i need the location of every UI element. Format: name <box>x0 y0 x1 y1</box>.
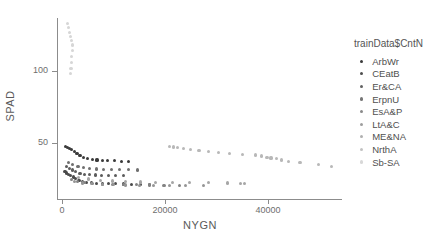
legend-dot-icon <box>360 160 363 163</box>
data-point <box>226 181 229 184</box>
legend-item[interactable]: NrthA <box>352 143 448 156</box>
data-point <box>111 179 114 182</box>
data-point <box>69 67 72 70</box>
data-point <box>188 181 191 184</box>
data-point <box>66 22 69 25</box>
x-tick-label: 40000 <box>243 205 293 215</box>
data-point <box>124 183 127 186</box>
data-point <box>139 180 142 183</box>
y-tick-label: 100 <box>8 65 48 75</box>
data-point <box>275 157 278 160</box>
legend-dot-icon <box>360 85 363 88</box>
legend-item[interactable]: ME&NA <box>352 131 448 144</box>
data-point <box>76 180 79 183</box>
data-point <box>76 165 79 168</box>
data-point <box>67 161 70 164</box>
data-point <box>127 168 130 171</box>
data-point <box>330 165 333 168</box>
x-tick-mark <box>165 199 166 204</box>
legend-item-label: Er&CA <box>372 81 401 92</box>
data-point <box>69 35 72 38</box>
data-point <box>168 184 171 187</box>
legend-dot-icon <box>360 110 363 113</box>
data-point <box>176 146 179 149</box>
data-point <box>73 180 76 183</box>
legend-item[interactable]: ErpnU <box>352 93 448 106</box>
data-point <box>67 26 70 29</box>
data-point <box>124 180 127 183</box>
data-point <box>162 184 165 187</box>
data-point <box>101 159 104 162</box>
data-point <box>88 173 91 176</box>
data-point <box>168 145 171 148</box>
data-point <box>260 154 263 157</box>
data-point <box>182 147 185 150</box>
data-point <box>254 153 257 156</box>
data-point <box>87 177 90 180</box>
data-point <box>88 167 91 170</box>
data-point <box>113 159 116 162</box>
data-point <box>178 184 181 187</box>
y-tick-mark <box>52 143 57 144</box>
data-point <box>120 160 123 163</box>
legend-title: trainData$CntN <box>352 38 448 49</box>
legend-item[interactable]: CEatB <box>352 68 448 81</box>
data-point <box>118 168 121 171</box>
legend-item[interactable]: ArbWr <box>352 55 448 68</box>
data-point <box>91 158 94 161</box>
x-tick-mark <box>62 199 63 204</box>
legend-item-label: ME&NA <box>372 131 406 142</box>
data-point <box>71 43 74 46</box>
data-point <box>154 181 157 184</box>
data-point <box>86 157 89 160</box>
x-axis-title: NYGN <box>150 219 250 231</box>
data-point <box>81 181 84 184</box>
x-axis-line <box>57 199 342 200</box>
data-point <box>207 150 210 153</box>
legend-dot-icon <box>360 60 363 63</box>
data-point <box>189 148 192 151</box>
legend-item-label: Sb-SA <box>372 157 399 168</box>
data-point <box>202 184 205 187</box>
data-point <box>114 174 117 177</box>
legend-item[interactable]: Sb-SA <box>352 156 448 169</box>
x-tick-label: 0 <box>37 205 87 215</box>
legend-dot-icon <box>360 148 363 151</box>
data-point <box>122 174 125 177</box>
legend-entries: ArbWrCEatBEr&CAErpnUEsA&PLtA&CME&NANrthA… <box>352 55 448 168</box>
legend-item[interactable]: LtA&C <box>352 118 448 131</box>
legend-dot-icon <box>360 135 363 138</box>
legend-item-label: ArbWr <box>372 56 399 67</box>
data-point <box>99 179 102 182</box>
legend-item-label: EsA&P <box>372 106 402 117</box>
data-point <box>69 72 72 75</box>
legend-item[interactable]: Er&CA <box>352 80 448 93</box>
data-point <box>127 160 130 163</box>
data-point <box>207 181 210 184</box>
data-point <box>82 156 85 159</box>
data-point <box>184 184 187 187</box>
x-tick-mark <box>268 199 269 204</box>
data-point <box>70 39 73 42</box>
legend-item-label: CEatB <box>372 68 399 79</box>
data-point <box>82 166 85 169</box>
data-point <box>95 167 98 170</box>
data-point <box>241 153 244 156</box>
legend-item[interactable]: EsA&P <box>352 105 448 118</box>
data-point <box>107 182 110 185</box>
data-point <box>78 172 81 175</box>
legend-item-label: LtA&C <box>372 119 399 130</box>
legend-dot-icon <box>360 72 363 75</box>
data-point <box>71 163 74 166</box>
data-point <box>243 182 246 185</box>
data-point <box>269 156 272 159</box>
data-point <box>102 168 105 171</box>
data-point <box>171 181 174 184</box>
data-point <box>70 55 73 58</box>
data-point <box>217 151 220 154</box>
y-tick-mark <box>52 71 57 72</box>
legend-item-label: ErpnU <box>372 94 399 105</box>
y-tick-label: 50 <box>8 137 48 147</box>
data-point <box>265 156 268 159</box>
data-point <box>172 145 175 148</box>
